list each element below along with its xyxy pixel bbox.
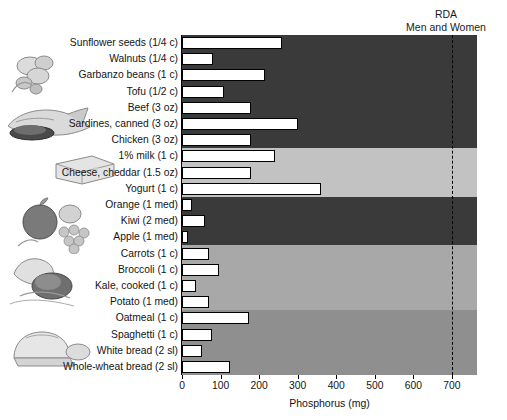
bar-row (182, 312, 477, 324)
bar-row (182, 345, 477, 357)
y-axis-label: Sardines, canned (3 oz) (69, 118, 178, 130)
x-axis: 0100200300400500600700 (182, 375, 477, 377)
x-axis-tick (298, 375, 299, 379)
y-axis-label: Apple (1 med) (113, 231, 178, 243)
y-axis-label: Orange (1 med) (105, 199, 178, 211)
rda-annotation-label: RDA Men and Women (385, 8, 507, 33)
x-axis-tick-label: 0 (179, 380, 185, 391)
bar-row (182, 248, 477, 260)
bar-row (182, 329, 477, 341)
bar-row (182, 53, 477, 65)
x-axis-tick-label: 500 (366, 380, 383, 391)
bar-row (182, 134, 477, 146)
x-axis-tick-label: 700 (443, 380, 460, 391)
bar (182, 231, 188, 243)
x-axis-tick (221, 375, 222, 379)
bar (182, 134, 251, 146)
y-axis-label: Broccoli (1 c) (118, 264, 178, 276)
y-axis-label: Potato (1 med) (110, 296, 178, 308)
bar-row (182, 183, 477, 195)
bar (182, 215, 205, 227)
x-axis-tick-label: 200 (251, 380, 268, 391)
x-axis-tick (452, 375, 453, 379)
y-axis-label: Kiwi (2 med) (121, 215, 178, 227)
phosphorus-bar-chart-figure: RDA Men and Women Sunflower seeds (1/4 c… (0, 0, 507, 420)
y-axis-label: Garbanzo beans (1 c) (78, 69, 178, 81)
y-axis-label: Spaghetti (1 c) (111, 329, 178, 341)
bar-row (182, 37, 477, 49)
y-axis-label: White bread (2 sl) (97, 345, 178, 357)
y-axis-label: Tofu (1/2 c) (126, 86, 178, 98)
rda-reference-line (452, 35, 453, 375)
x-axis-tick (375, 375, 376, 379)
bar (182, 167, 251, 179)
y-axis-label: Chicken (3 oz) (112, 134, 178, 146)
x-axis-tick-label: 600 (405, 380, 422, 391)
y-axis-label: Whole-wheat bread (2 sl) (63, 361, 178, 373)
bar-row (182, 361, 477, 373)
bar-row (182, 86, 477, 98)
x-axis-title: Phosphorus (mg) (182, 397, 477, 409)
x-axis-tick (259, 375, 260, 379)
bar (182, 312, 249, 324)
bar (182, 248, 209, 260)
bar (182, 264, 219, 276)
y-axis-label: 1% milk (1 c) (119, 150, 179, 162)
bar-row (182, 231, 477, 243)
bar (182, 53, 213, 65)
bar (182, 37, 282, 49)
x-axis-tick-label: 300 (289, 380, 306, 391)
bar-row (182, 150, 477, 162)
bar (182, 280, 196, 292)
bar-row (182, 102, 477, 114)
bar-row (182, 199, 477, 211)
bar (182, 199, 192, 211)
bar (182, 118, 298, 130)
bar (182, 296, 209, 308)
y-axis-label: Sunflower seeds (1/4 c) (70, 37, 178, 49)
plot-area (182, 35, 477, 375)
bar (182, 102, 251, 114)
x-axis-tick-label: 400 (328, 380, 345, 391)
bar (182, 86, 224, 98)
y-axis-label: Yogurt (1 c) (125, 183, 178, 195)
bar-row (182, 215, 477, 227)
bar-row (182, 118, 477, 130)
y-axis-labels: Sunflower seeds (1/4 c)Walnuts (1/4 c)Ga… (0, 35, 178, 375)
bar (182, 183, 321, 195)
y-axis-label: Carrots (1 c) (121, 248, 178, 260)
x-axis-tick-label: 100 (212, 380, 229, 391)
y-axis-label: Oatmeal (1 c) (116, 312, 178, 324)
x-axis-tick (336, 375, 337, 379)
y-axis-label: Cheese, cheddar (1.5 oz) (62, 167, 178, 179)
bar (182, 150, 275, 162)
bar (182, 329, 212, 341)
bar-row (182, 167, 477, 179)
bar-row (182, 264, 477, 276)
bar (182, 345, 202, 357)
bar-row (182, 296, 477, 308)
bar (182, 69, 265, 81)
y-axis-label: Kale, cooked (1 c) (95, 280, 178, 292)
bar (182, 361, 230, 373)
bar-row (182, 280, 477, 292)
y-axis-label: Walnuts (1/4 c) (109, 53, 178, 65)
y-axis-label: Beef (3 oz) (128, 102, 178, 114)
x-axis-tick (182, 375, 183, 379)
x-axis-tick (413, 375, 414, 379)
bar-row (182, 69, 477, 81)
